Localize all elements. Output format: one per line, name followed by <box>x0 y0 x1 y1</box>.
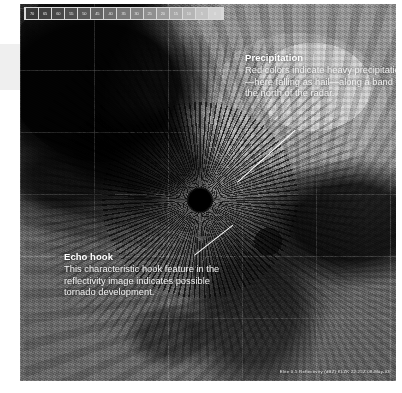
colorbar-tick-label: 70 <box>30 12 34 16</box>
page-edge-tab <box>0 44 20 90</box>
colorbar-tick-label: 60 <box>56 12 60 16</box>
callout-precipitation-body: Red colors indicate heavy precipitation—… <box>245 65 396 100</box>
colorbar-swatch: 55 <box>65 8 77 19</box>
colorbar-swatch: 70 <box>26 8 38 19</box>
colorbar-swatch: 50 <box>78 8 90 19</box>
colorbar-tick-label: 15 <box>174 12 178 16</box>
callout-echo-hook: Echo hook This characteristic hook featu… <box>64 251 239 299</box>
page-margin-bottom <box>0 381 402 393</box>
colorbar-tick-label: 30 <box>135 12 139 16</box>
colorbar-swatch: 10 <box>183 8 195 19</box>
colorbar-swatch: 20 <box>157 8 169 19</box>
colorbar-swatch: 5 <box>196 8 208 19</box>
reflectivity-color-bar: 7065605550454035302520151050 <box>24 7 224 20</box>
colorbar-tick-label: 20 <box>161 12 165 16</box>
page-margin-top <box>0 0 402 4</box>
colorbar-swatch: 60 <box>52 8 64 19</box>
colorbar-swatch: 45 <box>91 8 103 19</box>
colorbar-swatch: 35 <box>117 8 129 19</box>
radar-figure: 7065605550454035302520151050 Precipitati… <box>0 0 402 393</box>
page-margin-left <box>0 0 20 393</box>
callout-echo-hook-body: This characteristic hook feature in the … <box>64 264 239 299</box>
colorbar-tick-label: 45 <box>95 12 99 16</box>
page-margin-right <box>396 0 402 393</box>
colorbar-tick-label: 0 <box>214 12 216 16</box>
colorbar-tick-label: 50 <box>82 12 86 16</box>
colorbar-swatch: 15 <box>170 8 182 19</box>
colorbar-swatch: 65 <box>39 8 51 19</box>
colorbar-swatch: 0 <box>209 8 221 19</box>
colorbar-swatch: 30 <box>131 8 143 19</box>
colorbar-tick-label: 5 <box>201 12 203 16</box>
radar-status-caption: Elite 0.5 Reflectivity (dBZ) KLZK 22:25Z… <box>280 369 390 375</box>
colorbar-swatch: 40 <box>104 8 116 19</box>
colorbar-tick-label: 35 <box>121 12 125 16</box>
callout-precipitation-heading: Precipitation <box>245 52 396 64</box>
colorbar-tick-label: 25 <box>148 12 152 16</box>
radar-reflectivity-image: 7065605550454035302520151050 Precipitati… <box>20 4 396 381</box>
colorbar-swatch: 25 <box>144 8 156 19</box>
callout-echo-hook-heading: Echo hook <box>64 251 239 263</box>
colorbar-tick-label: 65 <box>43 12 47 16</box>
colorbar-tick-label: 55 <box>69 12 73 16</box>
colorbar-tick-label: 10 <box>187 12 191 16</box>
colorbar-tick-label: 40 <box>108 12 112 16</box>
callout-precipitation: Precipitation Red colors indicate heavy … <box>245 52 396 100</box>
